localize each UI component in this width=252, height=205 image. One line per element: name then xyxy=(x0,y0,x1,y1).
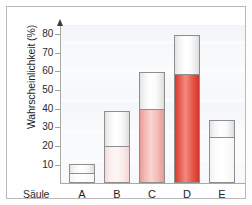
x-tick-label-e: E xyxy=(207,188,237,200)
x-tick-label-b: B xyxy=(102,188,132,200)
x-axis-line xyxy=(60,183,245,184)
bar-C xyxy=(139,72,165,183)
x-tick-label-c: C xyxy=(137,188,167,200)
y-tick-mark xyxy=(55,34,60,35)
bar-C-upper-segment xyxy=(139,72,165,110)
figure-frame: 80 70 60 50 40 30 20 10 Wahrscheinlichke… xyxy=(6,6,246,199)
bar-B xyxy=(104,111,130,183)
y-axis-arrow-icon xyxy=(57,19,63,26)
bar-C-lower-segment xyxy=(139,109,165,183)
bar-B-lower-segment xyxy=(104,146,130,183)
bar-E xyxy=(209,120,235,183)
x-tick-label-a: A xyxy=(67,188,97,200)
y-axis-line xyxy=(60,25,61,183)
bar-A xyxy=(69,164,95,183)
y-tick-mark xyxy=(55,109,60,110)
y-tick-mark xyxy=(55,165,60,166)
y-axis-title: Wahrscheinlichkeit (%) xyxy=(25,7,37,147)
y-tick-mark xyxy=(55,127,60,128)
figure-container: 80 70 60 50 40 30 20 10 Wahrscheinlichke… xyxy=(0,0,252,205)
y-tick-mark xyxy=(55,90,60,91)
bar-A-lower-segment xyxy=(69,173,95,183)
bar-D-upper-segment xyxy=(174,35,200,75)
bar-D-lower-segment xyxy=(174,74,200,183)
x-axis-title: Säule xyxy=(23,188,49,200)
y-tick-mark xyxy=(55,53,60,54)
x-tick-label-d: D xyxy=(172,188,202,200)
bar-D xyxy=(174,35,200,183)
bar-E-upper-segment xyxy=(209,120,235,138)
bar-B-upper-segment xyxy=(104,111,130,147)
bar-E-lower-segment xyxy=(209,137,235,183)
y-tick-mark xyxy=(55,71,60,72)
y-tick-label: 10 xyxy=(31,160,53,170)
y-tick-mark xyxy=(55,146,60,147)
